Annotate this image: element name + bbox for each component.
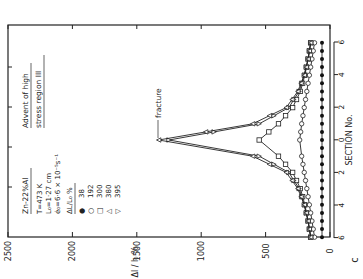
legend-label: 192 — [87, 185, 95, 198]
section-tick-label: 2 — [337, 170, 346, 175]
fracture-label: fracture — [154, 88, 163, 118]
value-tick-label: 0 — [326, 248, 335, 253]
legend-header: ΔL/L₀ % — [66, 187, 74, 214]
value-axis-title: Δl / l₀ % — [131, 246, 140, 277]
legend-label: 395 — [114, 185, 122, 198]
panel-label: c — [349, 257, 360, 263]
legend-strain-rate: ė₀=6·6 × 10⁻⁵s⁻¹ — [54, 154, 62, 214]
legend-entries: ●38○192□300△380▽395 — [78, 185, 122, 214]
section-tick-label: 4 — [337, 72, 346, 77]
value-tick-label: 2000 — [68, 241, 77, 261]
annotation-line-1: Advent of high — [21, 73, 30, 128]
legend-gauge-length: L₀=1·27 cm — [45, 173, 53, 214]
section-axis-title: SECTION No. — [345, 114, 354, 165]
series-192 — [298, 41, 317, 240]
legend-marker: □ — [96, 207, 104, 214]
fracture-annotation: fracture — [154, 88, 163, 138]
section-tick-label: 2 — [337, 105, 346, 110]
series-395 — [156, 41, 312, 240]
series-38 — [320, 41, 324, 239]
legend-marker: ○ — [87, 208, 95, 214]
legend-label: 300 — [96, 185, 104, 198]
series-300 — [257, 41, 313, 240]
value-tick-label: 2500 — [4, 241, 13, 261]
legend-material: Zn-22%Al — [21, 178, 30, 214]
chart: 25002000150010005000 Δl / l₀ % 6420246 S… — [0, 0, 363, 279]
annotation-line-2: stress region III — [34, 71, 43, 128]
legend-temperature: T=473 K — [36, 183, 44, 215]
value-tick-label: 1000 — [197, 241, 206, 261]
legend-marker: ▽ — [114, 208, 122, 214]
legend-marker: △ — [105, 208, 113, 214]
value-axis-tick-labels: 25002000150010005000 — [4, 241, 335, 261]
legend-label: 38 — [78, 189, 86, 198]
value-tick-label: 500 — [262, 243, 271, 258]
series-380 — [167, 41, 313, 240]
legend: Zn-22%Al T=473 K L₀=1·27 cm ė₀=6·6 × 10⁻… — [21, 154, 122, 215]
legend-label: 380 — [105, 185, 113, 198]
legend-marker: ● — [78, 208, 86, 214]
annotation-region-iii: Advent of high stress region III — [21, 55, 44, 128]
section-tick-label: 4 — [337, 202, 346, 207]
data-series — [156, 41, 324, 240]
section-tick-label: 6 — [337, 235, 346, 240]
section-tick-label: 6 — [337, 39, 346, 44]
